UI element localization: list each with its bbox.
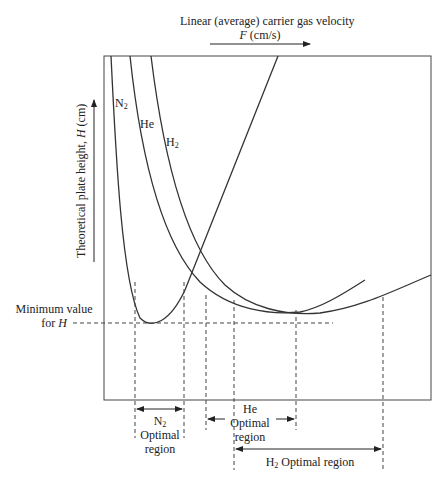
y-var: H [74,129,88,138]
n2-sub: 2 [124,102,128,111]
label-he: He [140,117,154,131]
y-title-text: Theoretical plate height, [74,138,88,258]
h2-region-text: Optimal region [278,455,354,469]
label-h2: H2 [166,135,179,149]
min-h-line1: Minimum value [10,302,98,316]
n2-region-label: N2 Optimal region [130,414,190,456]
he-region-line3: region [222,430,278,444]
h2-sub: 2 [175,141,179,150]
min-h-label: Minimum value for H [10,302,98,330]
he-region-label: He Optimal region [222,402,278,444]
n2-region-line3: region [130,442,190,456]
y-unit: (cm) [74,104,88,130]
n2-text: N [115,96,124,110]
he-region-line1: He [222,402,278,416]
min-h-var: H [58,316,67,330]
min-h-prefix: for [41,316,58,330]
y-axis-title: Theoretical plate height, H (cm) [74,104,89,258]
label-n2: N2 [115,96,128,110]
x-var: F [240,28,247,42]
he-text: He [140,117,154,131]
x-axis-title: Linear (average) carrier gas velocity F … [180,14,340,42]
h2-region-label: H2 Optimal region [250,455,370,469]
curve-n2 [111,56,278,323]
n2-region-line2: Optimal [130,428,190,442]
x-unit: (cm/s) [247,28,281,42]
min-h-line2: for H [10,316,98,330]
x-axis-title-line2: F (cm/s) [180,28,340,42]
n2-region-line1: N2 [130,414,190,428]
he-region-line2: Optimal [222,416,278,430]
curve-h2 [151,56,431,314]
plot-frame [104,56,431,400]
h2-text: H [166,135,175,149]
curve-he [130,56,365,313]
x-axis-title-line1: Linear (average) carrier gas velocity [180,14,340,28]
